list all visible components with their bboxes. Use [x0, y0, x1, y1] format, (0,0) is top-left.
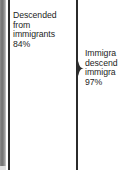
right-group-percentage: 97%: [85, 78, 118, 88]
left-group-percentage: 84%: [13, 40, 57, 50]
vertical-rule-left: [8, 0, 10, 170]
scanned-figure-fragment: Descended from immigrants 84% Immigra de…: [0, 0, 126, 170]
left-group-label: Descended from immigrants 84%: [13, 11, 57, 49]
scan-gutter-shadow-tail: [0, 166, 6, 170]
scan-gutter-shadow: [0, 0, 6, 166]
vertical-rule-right: [76, 0, 78, 170]
right-group-label: Immigra descend immigra 97%: [85, 49, 118, 87]
brace-tip-icon: [77, 60, 84, 77]
